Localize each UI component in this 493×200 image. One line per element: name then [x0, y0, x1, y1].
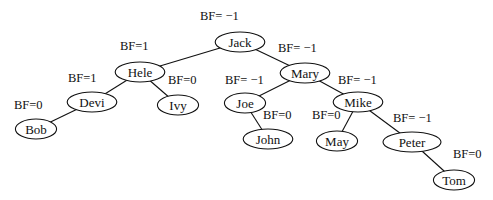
node-label: Tom	[442, 173, 466, 188]
balance-factor-bob: BF=0	[14, 98, 43, 112]
balance-factor-peter: BF= −1	[393, 111, 432, 125]
balance-factor-joe: BF= −1	[225, 73, 264, 87]
node-john: John	[243, 129, 293, 149]
balance-factor-may: BF=0	[312, 108, 341, 122]
node-peter: Peter	[383, 132, 441, 152]
node-jack: Jack	[215, 32, 265, 52]
balance-factor-mary: BF= −1	[278, 41, 317, 55]
balance-factor-devi: BF=1	[68, 71, 97, 85]
node-devi: Devi	[67, 92, 117, 112]
avl-tree-diagram: JackHeleMaryDeviIvyJoeMikeBobJohnMayPete…	[0, 0, 493, 200]
node-label: Devi	[79, 95, 105, 110]
balance-factor-mike: BF= −1	[338, 73, 377, 87]
node-bob: Bob	[15, 119, 56, 139]
node-label: Ivy	[169, 98, 187, 113]
node-label: Mike	[344, 95, 372, 110]
node-label: May	[325, 134, 349, 149]
balance-factor-ivy: BF=0	[168, 73, 197, 87]
node-hele: Hele	[115, 62, 165, 82]
balance-factor-hele: BF=1	[120, 39, 149, 53]
node-label: Bob	[25, 122, 47, 137]
tree-svg: JackHeleMaryDeviIvyJoeMikeBobJohnMayPete…	[0, 0, 493, 200]
node-label: Peter	[399, 135, 426, 150]
node-mike: Mike	[333, 92, 383, 112]
balance-factor-john: BF=0	[263, 108, 292, 122]
node-ivy: Ivy	[157, 95, 198, 115]
node-label: Mary	[291, 66, 320, 81]
node-label: John	[256, 132, 281, 147]
node-tom: Tom	[433, 170, 474, 190]
node-label: Joe	[236, 96, 254, 111]
node-label: Jack	[228, 35, 252, 50]
node-joe: Joe	[224, 93, 265, 113]
node-label: Hele	[128, 65, 153, 80]
node-mary: Mary	[280, 63, 330, 83]
balance-factor-tom: BF=0	[453, 147, 482, 161]
node-may: May	[316, 131, 357, 151]
balance-factor-jack: BF= −1	[200, 9, 239, 23]
